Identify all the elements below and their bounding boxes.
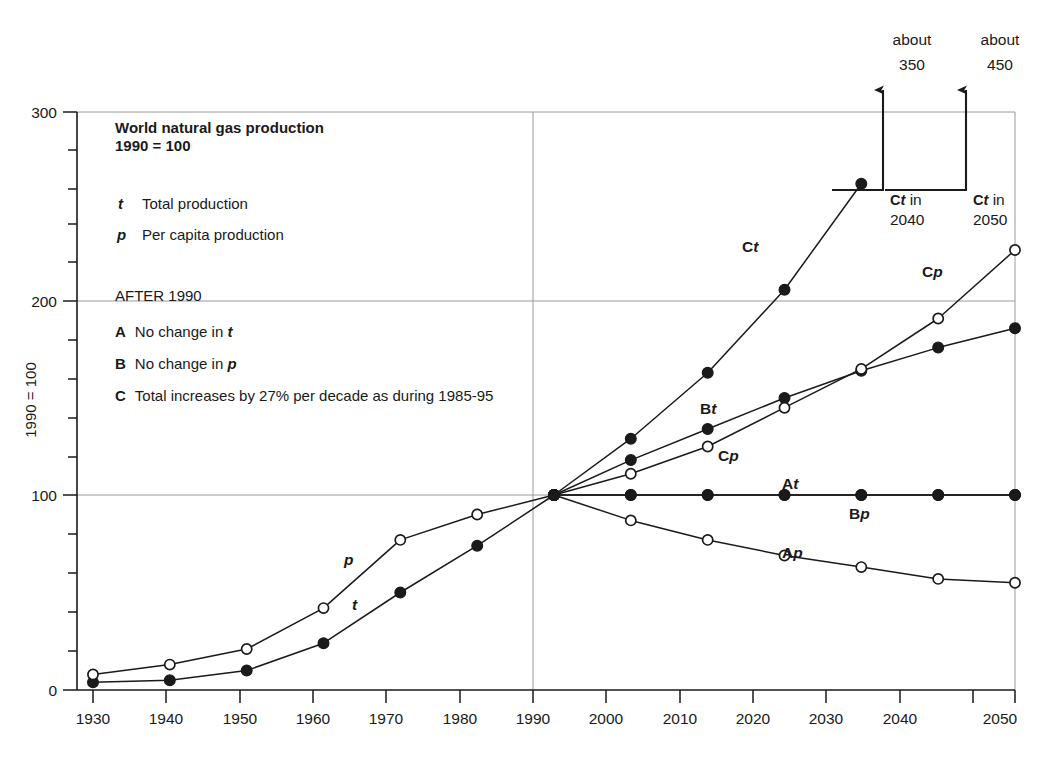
data-point-Ap-2010 bbox=[703, 535, 713, 545]
x-tick-label-1960: 1960 bbox=[296, 710, 331, 727]
data-point-Ct-2020 bbox=[779, 284, 790, 295]
curve-label-Bp: Bp bbox=[849, 505, 870, 522]
curve-label-Bt: Bt bbox=[700, 400, 717, 417]
data-point-Ap-2000 bbox=[626, 515, 636, 525]
legend-title-line2: 1990 = 100 bbox=[115, 137, 191, 154]
legend-scenario-C: CTotal increases by 27% per decade as du… bbox=[115, 387, 493, 404]
series-Ap bbox=[549, 490, 1020, 588]
data-point-Bp-2030 bbox=[856, 490, 867, 501]
data-point-t-1940 bbox=[164, 675, 175, 686]
data-point-Ct-2030 bbox=[856, 178, 867, 189]
curve-labels: p t Ct Cp Bt Cp At Bp Ap bbox=[343, 238, 943, 613]
legend-block: World natural gas production 1990 = 100 … bbox=[115, 119, 493, 404]
x-tick-label-2000: 2000 bbox=[589, 710, 624, 727]
ct-2050-about-value: 450 bbox=[987, 56, 1013, 73]
data-point-Ap-2040 bbox=[933, 574, 943, 584]
data-point-t-1980 bbox=[472, 540, 483, 551]
y-tick-label-200: 200 bbox=[31, 293, 57, 310]
curve-label-At: At bbox=[782, 475, 799, 492]
legend-key-t-symbol: t bbox=[118, 195, 124, 212]
data-point-t-1950 bbox=[241, 665, 252, 676]
curve-label-Cp-right: Cp bbox=[922, 263, 943, 280]
ct-2040-caption-line1: Ct in bbox=[890, 191, 922, 208]
y-tick-label-0: 0 bbox=[48, 682, 57, 699]
data-point-Bt-2040 bbox=[933, 342, 944, 353]
data-point-p-1960 bbox=[318, 603, 328, 613]
x-tick-label-1930: 1930 bbox=[76, 710, 111, 727]
x-axis-ticks bbox=[93, 690, 1015, 703]
curve-label-Cp-right-C: C bbox=[922, 263, 933, 280]
x-tick-label-2050: 2050 bbox=[983, 710, 1018, 727]
series-Cp bbox=[549, 245, 1020, 500]
y-axis-ticks bbox=[63, 112, 77, 690]
curve-label-p: p bbox=[343, 551, 353, 568]
ct-2050-arrow-icon bbox=[885, 90, 966, 190]
data-point-p-1970 bbox=[395, 535, 405, 545]
x-tick-label-1940: 1940 bbox=[149, 710, 184, 727]
series-t bbox=[88, 490, 560, 688]
series-layer bbox=[88, 178, 1021, 687]
x-tick-label-1990: 1990 bbox=[516, 710, 551, 727]
data-point-Ct-2000 bbox=[625, 433, 636, 444]
legend-key-t-text: Total production bbox=[142, 195, 248, 212]
chart-figure: 300 200 100 0 1990 = 100 1930 1940 1950 … bbox=[0, 0, 1048, 760]
x-tick-label-2010: 2010 bbox=[663, 710, 698, 727]
legend-scenario-B-sym: p bbox=[226, 355, 236, 372]
curve-label-Ap: Ap bbox=[782, 544, 803, 561]
x-tick-label-2030: 2030 bbox=[809, 710, 844, 727]
ct-2040-arrow-icon bbox=[832, 90, 883, 190]
data-point-Cp-2040 bbox=[933, 313, 943, 323]
x-tick-label-1980: 1980 bbox=[443, 710, 478, 727]
data-point-Bp-2000 bbox=[625, 490, 636, 501]
curve-label-At-t: t bbox=[793, 475, 799, 492]
curve-label-Cp-right-p: p bbox=[932, 263, 942, 280]
x-tick-labels: 1930 1940 1950 1960 1970 1980 1990 2000 … bbox=[76, 710, 1018, 727]
ct-2050-caption-in: in bbox=[988, 191, 1004, 208]
curve-label-Bp-p: p bbox=[859, 505, 869, 522]
legend-scenario-A: ANo change in t bbox=[115, 323, 233, 340]
line-chart-svg: 300 200 100 0 1990 = 100 1930 1940 1950 … bbox=[0, 0, 1048, 760]
x-tick-label-1950: 1950 bbox=[223, 710, 258, 727]
legend-scenario-B-pre: No change in bbox=[135, 355, 228, 372]
ct-2050-caption-C: C bbox=[973, 192, 984, 208]
legend-scenario-A-sym: t bbox=[227, 323, 233, 340]
curve-label-Ap-A: A bbox=[782, 544, 793, 561]
ct-2050-about-word: about bbox=[981, 31, 1020, 48]
data-point-Ap-2030 bbox=[856, 562, 866, 572]
ct-2040-caption-C: C bbox=[890, 192, 901, 208]
ct-2050-caption-year: 2050 bbox=[973, 211, 1008, 228]
ct-2040-caption-in: in bbox=[905, 191, 921, 208]
legend-after-header: AFTER 1990 bbox=[115, 287, 202, 304]
x-tick-label-1970: 1970 bbox=[369, 710, 404, 727]
curve-label-Ct-t: t bbox=[753, 238, 759, 255]
arrow-annotation-2040: about 350 Ct in 2040 bbox=[832, 31, 932, 228]
series-line-t bbox=[93, 495, 554, 682]
curve-label-Ap-p: p bbox=[792, 544, 802, 561]
ct-2040-about-value: 350 bbox=[899, 56, 925, 73]
data-point-Ap-2050 bbox=[1010, 578, 1020, 588]
ct-2040-about-word: about bbox=[893, 31, 932, 48]
data-point-Cp-2020 bbox=[779, 403, 789, 413]
y-tick-label-100: 100 bbox=[31, 487, 57, 504]
data-point-Bp-2040 bbox=[933, 490, 944, 501]
legend-scenario-B: BNo change in p bbox=[115, 355, 237, 372]
curve-label-Cp-mid-p: p bbox=[728, 447, 738, 464]
curve-label-Cp-mid: Cp bbox=[718, 447, 739, 464]
data-point-t-1960 bbox=[318, 638, 329, 649]
curve-label-Bp-B: B bbox=[849, 505, 860, 522]
data-point-Cp-2050 bbox=[1010, 245, 1020, 255]
curve-label-Ct: Ct bbox=[742, 238, 759, 255]
legend-key-p-symbol: p bbox=[116, 226, 126, 243]
data-point-Cp-2000 bbox=[626, 469, 636, 479]
data-point-p-1980 bbox=[472, 509, 482, 519]
data-point-Cp-2010 bbox=[703, 441, 713, 451]
curve-label-Bt-t: t bbox=[711, 400, 717, 417]
series-p bbox=[88, 490, 559, 680]
data-point-Bt-2050 bbox=[1010, 323, 1021, 334]
data-point-Cp-2030 bbox=[856, 364, 866, 374]
data-point-Ct-1990 bbox=[549, 490, 560, 501]
legend-scenario-B-letter: B bbox=[115, 355, 126, 372]
data-point-Bp-2050 bbox=[1010, 490, 1021, 501]
legend-key-p-text: Per capita production bbox=[142, 226, 284, 243]
data-point-p-1940 bbox=[165, 660, 175, 670]
